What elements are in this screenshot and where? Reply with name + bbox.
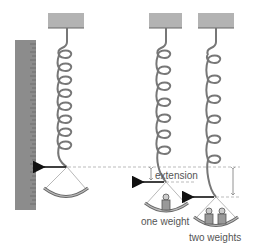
two-weights-label: two weights (189, 232, 241, 243)
pan-one-weight (145, 182, 188, 211)
spring-one-weight (157, 28, 171, 182)
weight-icon (205, 208, 213, 224)
spring-two-weights (207, 28, 221, 197)
ruler (15, 40, 36, 210)
ceiling-blocks (48, 13, 234, 28)
weight-icon (162, 194, 170, 210)
pan-empty (44, 167, 88, 197)
spring-diagram: extension one weight two weights (0, 0, 255, 251)
one-weight-label: one weight (141, 216, 189, 227)
spring-no-weight (58, 28, 72, 167)
extension-label: extension (155, 170, 198, 181)
pan-two-weights (194, 197, 238, 226)
weight-icon (218, 208, 226, 224)
